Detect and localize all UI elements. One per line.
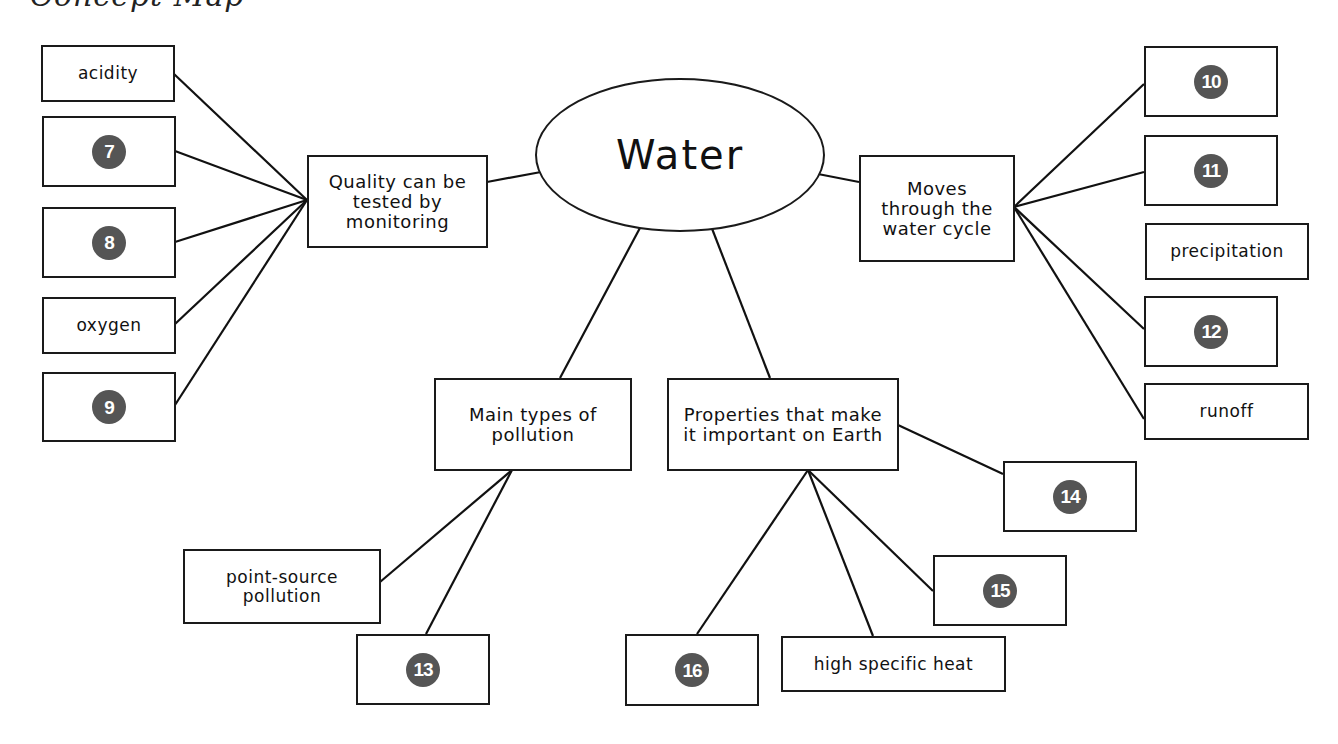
question-number-badge: 16 [675, 653, 709, 687]
branch-properties: Properties that make it important on Ear… [667, 378, 899, 471]
question-number-badge: 14 [1053, 480, 1087, 514]
question-number-badge: 15 [983, 574, 1017, 608]
blank-node-12[interactable]: 12 [1144, 296, 1278, 367]
node-label: oxygen [76, 316, 141, 335]
node-point-source-pollution: point-source pollution [183, 549, 381, 624]
node-label: runoff [1200, 402, 1254, 421]
node-oxygen: oxygen [42, 297, 176, 354]
node-label: point-source pollution [212, 568, 352, 606]
question-number-badge: 11 [1194, 154, 1228, 188]
branch-quality-testing: Quality can be tested by monitoring [307, 155, 488, 248]
question-number-badge: 13 [406, 653, 440, 687]
question-number-badge: 12 [1194, 315, 1228, 349]
branch-label: Moves through the water cycle [867, 179, 1007, 239]
branch-water-cycle: Moves through the water cycle [859, 155, 1015, 262]
concept-map: Concept Map Water Quality can be tested … [0, 0, 1338, 744]
blank-node-8[interactable]: 8 [42, 207, 176, 278]
central-concept-label: Water [616, 132, 744, 178]
blank-node-13[interactable]: 13 [356, 634, 490, 705]
node-runoff: runoff [1144, 383, 1309, 440]
blank-node-7[interactable]: 7 [42, 116, 176, 187]
node-label: high specific heat [814, 655, 973, 674]
blank-node-14[interactable]: 14 [1003, 461, 1137, 532]
node-high-specific-heat: high specific heat [781, 636, 1006, 692]
node-precipitation: precipitation [1145, 223, 1309, 280]
branch-pollution-types: Main types of pollution [434, 378, 632, 471]
question-number-badge: 10 [1194, 65, 1228, 99]
question-number-badge: 9 [92, 390, 126, 424]
node-acidity: acidity [41, 45, 175, 102]
central-concept-water: Water [535, 78, 825, 232]
node-label: precipitation [1170, 242, 1284, 261]
branch-label: Quality can be tested by monitoring [318, 172, 478, 232]
blank-node-9[interactable]: 9 [42, 372, 176, 442]
blank-node-16[interactable]: 16 [625, 634, 759, 706]
branch-label: Properties that make it important on Ear… [683, 405, 883, 445]
node-label: acidity [78, 64, 138, 83]
blank-node-11[interactable]: 11 [1144, 135, 1278, 206]
question-number-badge: 8 [92, 226, 126, 260]
blank-node-15[interactable]: 15 [933, 555, 1067, 626]
branch-label: Main types of pollution [458, 405, 608, 445]
question-number-badge: 7 [92, 135, 126, 169]
blank-node-10[interactable]: 10 [1144, 46, 1278, 117]
